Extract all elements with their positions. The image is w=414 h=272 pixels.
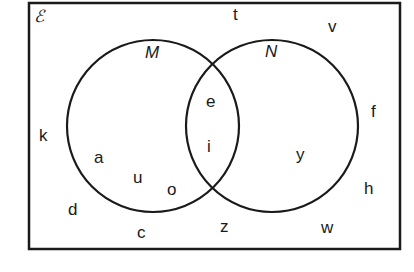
set-n-circle (186, 40, 358, 212)
element-k: k (39, 126, 48, 145)
element-t: t (233, 5, 238, 24)
set-n-label: N (265, 42, 278, 61)
element-f: f (371, 102, 376, 121)
universal-set-label: ℰ (34, 7, 46, 26)
element-y: y (296, 145, 305, 164)
set-m-label: M (145, 43, 160, 62)
element-u: u (133, 168, 142, 187)
set-m-circle (67, 40, 239, 212)
element-a: a (94, 148, 104, 167)
element-d: d (68, 200, 77, 219)
element-z: z (220, 217, 229, 236)
universal-set-rectangle (29, 3, 400, 249)
element-v: v (328, 17, 337, 36)
element-c: c (137, 223, 146, 242)
element-i: i (207, 137, 211, 156)
element-h: h (364, 179, 373, 198)
element-w: w (320, 218, 334, 237)
element-o: o (167, 180, 176, 199)
element-e: e (206, 92, 215, 111)
venn-diagram: ℰ M N t v e f k a i y u o h d z w c (0, 0, 414, 272)
